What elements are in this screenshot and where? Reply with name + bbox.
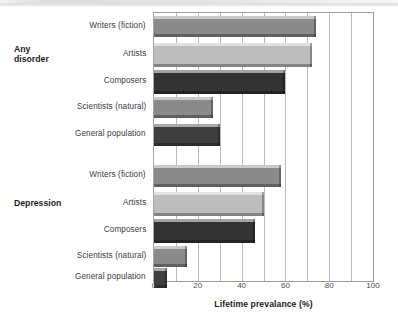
bar-end-edge [283,70,285,94]
bar-end-edge [310,43,312,67]
bar-highlight [154,165,281,168]
gridline-90 [351,13,352,281]
group-label-line: disorder [14,54,49,64]
bar-chart-figure: Writers (fiction)ArtistsComposersScienti… [0,0,398,328]
x-tick-label-0: 0 [152,281,156,290]
x-axis-title: Lifetime prevalance (%) [153,299,374,309]
category-label: Writers (fiction) [90,169,146,179]
gridline-80 [329,13,330,281]
bar [154,246,187,267]
category-label: Writers (fiction) [90,20,146,30]
x-tick-label-80: 80 [325,281,334,290]
bar-shadow [154,64,312,67]
bar [154,124,220,146]
bar-highlight [154,97,213,100]
bar-end-edge [185,246,187,267]
bar-highlight [154,124,220,127]
bar-highlight [154,43,312,46]
group-label-line: Any [14,44,49,54]
bar [154,70,285,94]
category-label: Scientists (natural) [77,250,146,260]
bar-highlight [154,192,264,195]
bar-highlight [154,246,187,249]
bar-shadow [154,240,255,243]
category-label-column: Writers (fiction)ArtistsComposersScienti… [0,10,151,282]
group-label-depression: Depression [14,198,61,208]
category-label: Artists [123,197,146,207]
x-tick-label-60: 60 [281,281,290,290]
bar-shadow [154,264,187,267]
bar [154,192,264,216]
x-tick-label-20: 20 [193,281,202,290]
bar-highlight [154,70,285,73]
category-label: Composers [103,224,146,234]
category-label: Composers [103,75,146,85]
bar [154,219,255,243]
x-axis-tick-labels: 020406080100 [153,281,374,295]
bar-shadow [154,34,316,37]
bar-end-edge [262,192,264,216]
category-label: General population [75,128,146,138]
category-label: Artists [123,48,146,58]
bar-shadow [154,91,285,94]
plot-area [153,12,374,282]
bar-end-edge [253,219,255,243]
bar-shadow [154,143,220,146]
bar [154,165,281,187]
bar-end-edge [279,165,281,187]
category-label: General population [75,271,146,281]
bar-highlight [154,219,255,222]
category-label: Scientists (natural) [77,101,146,111]
bar [154,97,213,118]
x-tick-label-40: 40 [237,281,246,290]
bar-end-edge [211,97,213,118]
bar-shadow [154,115,213,118]
bar-end-edge [218,124,220,146]
bar [154,16,316,37]
x-tick-label-100: 100 [366,281,379,290]
bar-highlight [154,16,316,19]
bar-end-edge [314,16,316,37]
group-label-any-disorder: Anydisorder [14,44,49,64]
bar-shadow [154,213,264,216]
bar-shadow [154,184,281,187]
bar [154,43,312,67]
